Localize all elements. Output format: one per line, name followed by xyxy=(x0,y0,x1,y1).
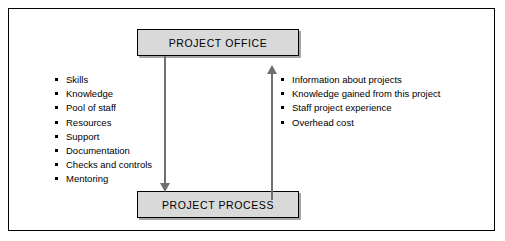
bullet-icon xyxy=(55,106,58,109)
list-item-label: Mentoring xyxy=(66,173,108,184)
bullet-icon xyxy=(55,135,58,138)
list-item: Information about projects xyxy=(281,73,440,87)
list-item: Resources xyxy=(55,116,152,130)
node-project-office-label: PROJECT OFFICE xyxy=(169,37,268,49)
list-item: Checks and controls xyxy=(55,158,152,172)
bullet-icon xyxy=(55,92,58,95)
arrow-head-up-icon xyxy=(267,65,277,74)
list-item: Mentoring xyxy=(55,172,152,186)
list-item: Knowledge xyxy=(55,87,152,101)
inputs-to-process-list: Skills Knowledge Pool of staff Resources… xyxy=(55,73,152,187)
list-item-label: Knowledge gained from this project xyxy=(292,88,440,99)
list-item: Staff project experience xyxy=(281,101,440,115)
bullet-icon xyxy=(55,149,58,152)
bullet-icon xyxy=(281,121,284,124)
list-item-label: Support xyxy=(66,131,99,142)
list-item: Documentation xyxy=(55,144,152,158)
bullet-icon xyxy=(55,163,58,166)
bullet-icon xyxy=(281,78,284,81)
list-item-label: Information about projects xyxy=(292,74,402,85)
node-project-process-label: PROJECT PROCESS xyxy=(162,199,274,211)
list-item-label: Resources xyxy=(66,117,111,128)
list-item: Knowledge gained from this project xyxy=(281,87,440,101)
arrow-shaft xyxy=(271,74,273,200)
bullet-icon xyxy=(281,106,284,109)
diagram-frame: PROJECT OFFICE PROJECT PROCESS Skills Kn… xyxy=(8,8,495,231)
bullet-icon xyxy=(55,121,58,124)
list-item-label: Documentation xyxy=(66,145,130,156)
bullet-icon xyxy=(55,177,58,180)
bullet-icon xyxy=(281,92,284,95)
arrow-head-down-icon xyxy=(160,183,170,192)
list-item: Pool of staff xyxy=(55,101,152,115)
list-item: Overhead cost xyxy=(281,116,440,130)
list-item-label: Checks and controls xyxy=(66,159,152,170)
node-project-office: PROJECT OFFICE xyxy=(137,29,299,56)
list-item-label: Knowledge xyxy=(66,88,113,99)
diagram-figure: PROJECT OFFICE PROJECT PROCESS Skills Kn… xyxy=(0,0,505,241)
list-item: Skills xyxy=(55,73,152,87)
node-project-process: PROJECT PROCESS xyxy=(137,191,299,218)
bullet-icon xyxy=(55,78,58,81)
list-item-label: Pool of staff xyxy=(66,102,116,113)
list-item-label: Skills xyxy=(66,74,88,85)
list-item-label: Overhead cost xyxy=(292,117,354,128)
arrow-shaft xyxy=(164,56,166,183)
list-item: Support xyxy=(55,130,152,144)
list-item-label: Staff project experience xyxy=(292,102,392,113)
outputs-to-office-list: Information about projects Knowledge gai… xyxy=(281,73,440,130)
